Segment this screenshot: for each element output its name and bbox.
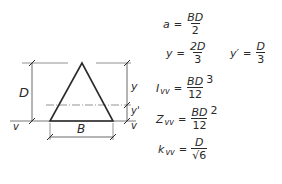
equals-sign: = bbox=[177, 48, 185, 59]
numerator: 2D bbox=[189, 41, 206, 52]
label-y-prime: y' bbox=[131, 106, 140, 116]
formula-lhs: a bbox=[163, 18, 170, 31]
triangle-shape bbox=[50, 63, 113, 121]
numerator: D bbox=[194, 137, 204, 148]
formula-moment-of-inertia: I vv = BD 12 3 bbox=[156, 76, 213, 100]
formula-lhs: k bbox=[158, 143, 164, 156]
denominator: 12 bbox=[191, 118, 207, 131]
numerator: D bbox=[255, 41, 265, 52]
denominator: 2 bbox=[191, 23, 200, 36]
numerator: BD bbox=[186, 12, 204, 23]
fraction: D 3 bbox=[255, 41, 265, 65]
formula-lhs: y bbox=[166, 47, 173, 60]
label-D: D bbox=[19, 86, 29, 99]
formula-subscript: vv bbox=[165, 118, 174, 127]
formula-subscript: vv bbox=[165, 148, 174, 157]
formula-radius-of-gyration: k vv = D √6 bbox=[158, 137, 207, 161]
formula-area: a = BD 2 bbox=[163, 12, 204, 36]
formula-lhs: Z bbox=[156, 113, 164, 126]
denominator: 3 bbox=[193, 52, 202, 65]
formula-centroid-y-prime: y′ = D 3 bbox=[230, 41, 266, 65]
fraction: D √6 bbox=[191, 137, 207, 161]
fraction: 2D 3 bbox=[189, 41, 206, 65]
label-B: B bbox=[77, 123, 85, 135]
fraction: BD 2 bbox=[186, 12, 204, 36]
equals-sign: = bbox=[179, 144, 187, 155]
formula-section-modulus: Z vv = BD 12 2 bbox=[156, 107, 217, 131]
fraction: BD 12 bbox=[186, 76, 204, 100]
formula-lhs: y′ bbox=[230, 47, 239, 60]
label-y: y bbox=[131, 81, 138, 92]
denominator: 12 bbox=[187, 87, 203, 100]
equals-sign: = bbox=[243, 48, 251, 59]
numerator: BD bbox=[190, 107, 208, 118]
numerator: BD bbox=[186, 76, 204, 87]
equals-sign: = bbox=[174, 19, 182, 30]
fraction: BD 12 bbox=[190, 107, 208, 131]
exponent: 2 bbox=[210, 104, 217, 117]
denominator: √6 bbox=[191, 148, 207, 161]
formula-lhs: I bbox=[156, 82, 159, 95]
label-v-left: v bbox=[13, 122, 19, 132]
formula-centroid-y: y = 2D 3 bbox=[166, 41, 206, 65]
exponent: 3 bbox=[206, 73, 213, 86]
label-v-right: v bbox=[131, 121, 137, 131]
denominator: 3 bbox=[256, 52, 265, 65]
formula-subscript: vv bbox=[160, 87, 169, 96]
equals-sign: = bbox=[174, 83, 182, 94]
equals-sign: = bbox=[178, 114, 186, 125]
